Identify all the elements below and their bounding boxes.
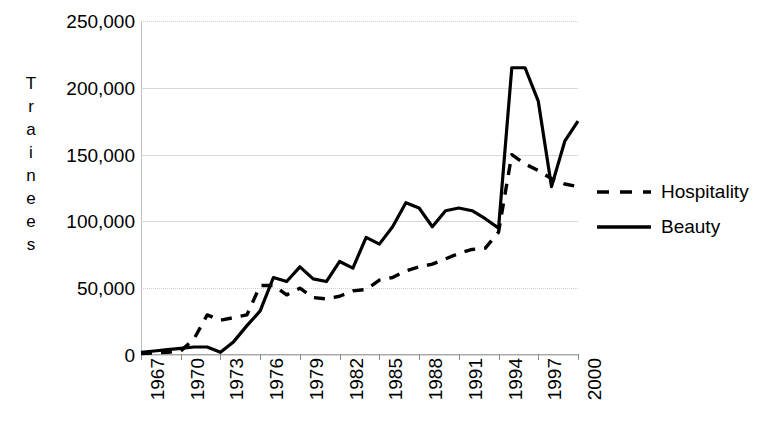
y-axis-tick-label: 100,000 (17, 212, 135, 231)
y-axis-tick-label: 200,000 (17, 79, 135, 98)
x-axis-tick-mark (578, 354, 579, 360)
x-axis-tick-label: 1985 (386, 358, 405, 400)
y-axis-tick-label: 150,000 (17, 146, 135, 165)
x-axis-tick-label: 1988 (426, 358, 445, 400)
y-axis-tick-label: 50,000 (17, 279, 135, 298)
x-axis-tick-labels: 1967197019731976197919821985198819911994… (141, 358, 578, 428)
plot-area (141, 21, 578, 355)
gridline (141, 355, 578, 356)
x-axis-tick-label: 1976 (267, 358, 286, 400)
chart-legend: HospitalityBeauty (596, 182, 771, 236)
legend-label: Hospitality (661, 182, 749, 201)
x-axis-tick-label: 1967 (148, 358, 167, 400)
legend-key-dashed-line-icon (596, 186, 652, 198)
x-axis-tick-label: 1994 (506, 358, 525, 400)
series-line-beauty (141, 68, 578, 353)
x-axis-tick-label: 1973 (227, 358, 246, 400)
x-axis-tick-label: 1982 (347, 358, 366, 400)
legend-label: Beauty (661, 217, 720, 236)
y-axis-tick-labels: 250,000200,000150,000100,00050,0000 (10, 0, 135, 430)
x-axis-tick-label: 1997 (545, 358, 564, 400)
chart-figure: Trainees 250,000200,000150,000100,00050,… (0, 0, 773, 430)
y-axis-tick-label: 0 (17, 346, 135, 365)
y-axis-tick-label: 250,000 (17, 12, 135, 31)
legend-item-beauty[interactable]: Beauty (596, 217, 771, 236)
legend-item-hospitality[interactable]: Hospitality (596, 182, 771, 201)
x-axis-tick-label: 1970 (188, 358, 207, 400)
series-lines (141, 21, 578, 355)
x-axis-tick-label: 1979 (307, 358, 326, 400)
x-axis-tick-label: 1991 (466, 358, 485, 400)
legend-key-solid-line-icon (596, 221, 652, 233)
x-axis-tick-label: 2000 (585, 358, 604, 400)
